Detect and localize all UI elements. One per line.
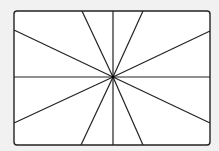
- diagram-canvas: [0, 0, 219, 151]
- radial-lines-diagram: [0, 0, 219, 151]
- center-point: [112, 76, 115, 79]
